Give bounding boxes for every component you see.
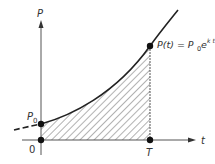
origin-label: 0 xyxy=(29,144,35,155)
t-point-label: T xyxy=(146,147,153,158)
curve-equation-label: P(t) = P 0 e k t xyxy=(157,37,215,53)
y-axis-arrow-icon xyxy=(39,20,44,28)
t-point xyxy=(147,137,153,143)
p0-point xyxy=(38,121,44,127)
x-axis-arrow-icon xyxy=(188,138,196,143)
svg-text:k t: k t xyxy=(207,37,215,44)
origin-point xyxy=(38,137,44,143)
pt-point xyxy=(147,43,153,49)
shaded-area xyxy=(41,40,151,141)
p0-label: P 0 xyxy=(27,111,37,125)
y-axis-label: P xyxy=(37,8,44,19)
exponential-growth-diagram: P t 0 T P 0 P(t) = P 0 e k t xyxy=(0,0,215,164)
x-axis-label: t xyxy=(201,135,206,146)
svg-text:P(t) = P: P(t) = P xyxy=(157,39,194,50)
svg-text:0: 0 xyxy=(33,117,37,125)
